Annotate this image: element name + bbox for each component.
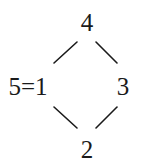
hasse-diagram: 4 5=1 3 2 bbox=[0, 0, 141, 166]
edge-left-bottom bbox=[54, 107, 77, 128]
node-right: 3 bbox=[117, 74, 130, 99]
node-top: 4 bbox=[81, 10, 94, 35]
node-bottom: 2 bbox=[81, 137, 94, 162]
edge-top-right bbox=[96, 42, 117, 63]
edge-right-bottom bbox=[96, 107, 117, 128]
edge-top-left bbox=[54, 42, 77, 63]
node-left: 5=1 bbox=[8, 74, 47, 99]
